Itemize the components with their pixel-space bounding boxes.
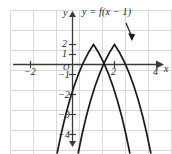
- y-axis: [69, 11, 76, 147]
- origin-label: O: [63, 62, 70, 72]
- x-axis-label: x: [164, 63, 168, 74]
- y-tick-label-neg4: −4: [58, 129, 70, 140]
- y-axis-arrow-up-icon: [69, 11, 76, 17]
- y-axis-arrow-down-icon: [69, 141, 76, 147]
- y-tick-label-neg2: −2: [58, 89, 70, 100]
- y-tick-label-1: 1: [62, 48, 67, 59]
- y-axis-label: y: [63, 7, 67, 18]
- annotation-arrow: [126, 23, 135, 41]
- x-tick-label-2: 2: [111, 66, 116, 77]
- arrowhead-icon: [128, 33, 135, 41]
- curve-f-of-x-minus-1: [78, 45, 151, 154]
- x-tick-label-4: 4: [153, 66, 158, 77]
- x-axis-arrow-icon: [157, 61, 164, 68]
- grid-lines: [10, 10, 172, 154]
- graph-figure: y = f(x − 1) 2 1 −1 −2 −3 −4 −2 2 4 O x …: [0, 0, 172, 154]
- y-tick-label-neg3: −3: [58, 109, 70, 120]
- coordinate-plane: [0, 0, 172, 154]
- equation-label: y = f(x − 1): [82, 6, 131, 17]
- x-tick-label-neg2: −2: [24, 66, 36, 77]
